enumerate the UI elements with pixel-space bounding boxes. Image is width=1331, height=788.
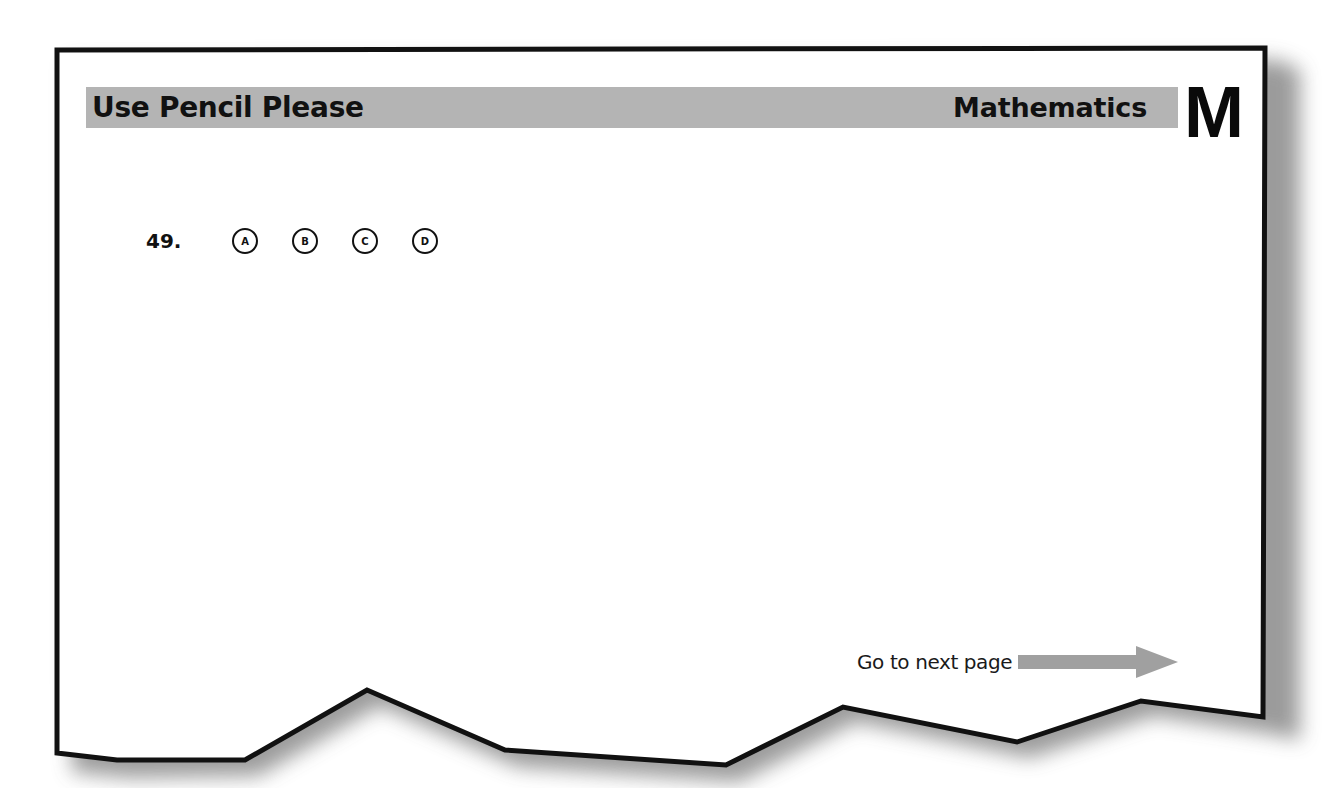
next-page-indicator: Go to next page <box>857 645 1180 679</box>
section-letter: M <box>1184 72 1244 142</box>
header-subject: Mathematics <box>953 86 1147 128</box>
answer-bubble-d[interactable]: D <box>412 228 438 254</box>
answer-bubble-b[interactable]: B <box>292 228 318 254</box>
header-title: Use Pencil Please <box>92 86 364 128</box>
answer-bubble-c[interactable]: C <box>352 228 378 254</box>
answer-bubble-a[interactable]: A <box>232 228 258 254</box>
right-arrow-icon <box>1018 645 1180 679</box>
answer-row: 49. A B C D <box>146 224 472 258</box>
next-page-label: Go to next page <box>857 650 1012 674</box>
question-number: 49. <box>146 229 232 253</box>
